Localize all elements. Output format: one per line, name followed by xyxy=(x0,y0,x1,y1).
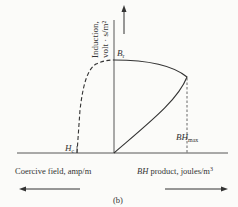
figure-caption: (b) xyxy=(113,195,123,205)
hc-label: Hc xyxy=(64,143,75,154)
up-arrow-icon xyxy=(122,5,127,34)
right-arrow-icon xyxy=(165,187,228,192)
coercive-field-label: Coercive field, amp/m xyxy=(15,166,92,176)
y-axis-label-line1: Induction, xyxy=(90,21,100,58)
y-axis-label-line2: volt · s/m² xyxy=(100,20,110,58)
bhmax-label: BHmax xyxy=(176,132,198,143)
demagnetization-curve xyxy=(77,60,114,153)
bh-diagram: Induction, volt · s/m² Br Hc BHmax Coerc… xyxy=(0,0,238,207)
left-arrow-icon xyxy=(19,187,80,192)
br-label: Br xyxy=(117,48,125,59)
bh-product-label: BH product, joules/m3 xyxy=(137,166,213,176)
